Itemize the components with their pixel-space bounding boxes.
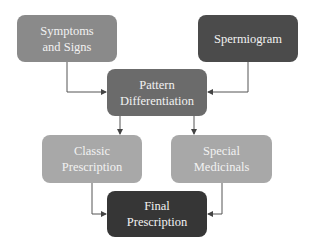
node-label-line: Medicinals xyxy=(194,159,250,175)
edge-symptoms-to-pattern xyxy=(67,62,106,92)
node-final-prescription: FinalPrescription xyxy=(107,191,207,237)
edge-classic-to-final xyxy=(92,183,106,214)
node-spermiogram: Spermiogram xyxy=(198,15,298,62)
node-symptoms-and-signs: Symptomsand Signs xyxy=(17,15,117,62)
node-label-line: Symptoms xyxy=(40,23,94,39)
node-special-medicinals: SpecialMedicinals xyxy=(171,135,272,183)
node-label-line: and Signs xyxy=(40,39,94,55)
node-label-line: Prescription xyxy=(127,214,187,230)
node-classic-prescription: ClassicPrescription xyxy=(42,135,142,183)
node-label-line: Differentiation xyxy=(120,93,194,109)
node-pattern-differentiation: PatternDifferentiation xyxy=(107,69,207,116)
node-label-line: Final xyxy=(127,198,187,214)
node-label-line: Pattern xyxy=(120,77,194,93)
node-label-line: Classic xyxy=(62,143,122,159)
edge-spermiogram-to-pattern xyxy=(208,62,248,92)
node-label-line: Prescription xyxy=(62,159,122,175)
edge-special-to-final xyxy=(208,183,222,214)
node-label-line: Special xyxy=(194,143,250,159)
node-label-line: Spermiogram xyxy=(214,31,282,47)
